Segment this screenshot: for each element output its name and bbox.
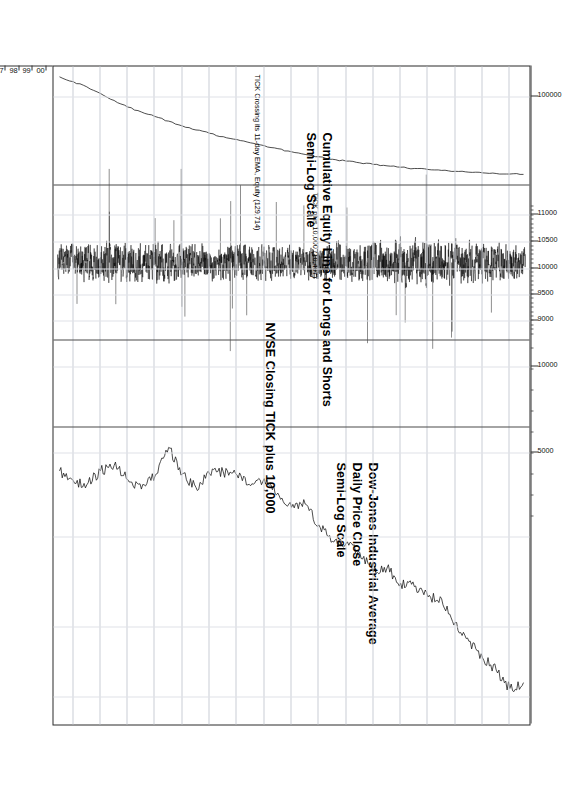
grid-line	[127, 66, 128, 724]
grid-line	[154, 66, 155, 724]
landscape-chart: 10000011000105001000095009000100005000 T…	[27, 27, 557, 762]
panel-separator	[54, 184, 530, 185]
grid-line	[181, 66, 182, 724]
grid-line	[400, 66, 401, 724]
grid-line	[209, 66, 210, 724]
year-axis: 6667686970717273747576777879808182838485…	[29, 65, 53, 725]
value-axis-label: 11000	[538, 207, 557, 216]
value-grid-line	[54, 268, 530, 269]
grid-line	[236, 66, 237, 724]
grid-line	[454, 66, 455, 724]
grid-line	[99, 66, 100, 724]
panel-separator	[54, 339, 530, 340]
grid-line	[509, 66, 510, 724]
panel2-title: NYSE Closing TICK plus 10,000	[263, 322, 277, 513]
value-axis-label: 9000	[538, 313, 554, 322]
value-axis-label: 100000	[538, 89, 562, 98]
value-axis-label: 9500	[538, 287, 554, 296]
grid-line	[263, 66, 264, 724]
year-axis-rail	[0, 65, 53, 66]
value-axis-label: 5000	[538, 445, 554, 454]
grid-line	[291, 66, 292, 724]
value-grid-line	[54, 452, 530, 453]
value-grid-line	[54, 626, 530, 627]
rotated-chart-wrapper: 10000011000105001000095009000100005000 T…	[0, 0, 583, 789]
grid-line	[72, 66, 73, 724]
value-axis-label: 10500	[538, 234, 558, 243]
value-axis-rail	[531, 65, 532, 723]
value-grid-line	[54, 536, 530, 537]
figure-page: 10000011000105001000095009000100005000 T…	[0, 0, 583, 789]
value-grid-line	[54, 320, 530, 321]
value-axis-tick	[531, 365, 539, 366]
value-grid-line	[54, 214, 530, 215]
grid-line	[482, 66, 483, 724]
grid-line	[372, 66, 373, 724]
value-grid-line	[54, 366, 530, 367]
grid-line	[427, 66, 428, 724]
value-axis-label: 10000	[538, 261, 558, 270]
value-axis: 10000011000105001000095009000100005000	[531, 65, 557, 725]
value-axis-label: 10000	[538, 359, 558, 368]
plot-frame: TICK Crossing its 11-day EMA, Equity (12…	[53, 65, 531, 725]
plot-series-layer	[54, 66, 530, 724]
value-axis-tick	[531, 95, 539, 96]
value-grid-line	[54, 696, 530, 697]
panel-separator	[54, 426, 530, 427]
grid-line	[318, 66, 319, 724]
value-grid-line	[54, 96, 530, 97]
panel3-title-line2: Daily Price Close	[350, 462, 364, 566]
value-grid-line	[54, 241, 530, 242]
value-grid-line	[54, 294, 530, 295]
grid-line	[345, 66, 346, 724]
